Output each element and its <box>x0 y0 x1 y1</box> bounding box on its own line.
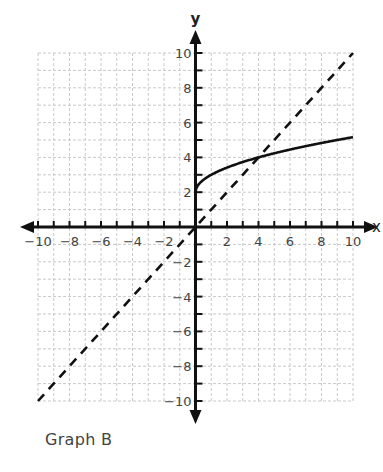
y-tick-label: −8 <box>172 359 191 374</box>
x-tick-label: −6 <box>91 234 110 249</box>
coordinate-plane: −10−8−6−4−2246810−10−8−6−4−2246810 x y <box>0 0 383 472</box>
axes <box>20 30 378 424</box>
x-tick-label: −10 <box>24 234 51 249</box>
x-tick-label: 2 <box>223 234 231 249</box>
x-tick-label: −8 <box>60 234 79 249</box>
y-tick-label: 2 <box>183 185 191 200</box>
y-axis-label: y <box>191 10 201 28</box>
y-tick-label: 8 <box>183 81 191 96</box>
x-axis-label: x <box>372 218 381 236</box>
y-tick-label: 6 <box>183 116 191 131</box>
x-tick-label: −2 <box>154 234 173 249</box>
y-tick-label: −6 <box>172 324 191 339</box>
y-tick-label: −2 <box>172 255 191 270</box>
x-tick-label: −4 <box>123 234 142 249</box>
y-tick-label: −10 <box>164 394 191 409</box>
x-tick-label: 4 <box>254 234 262 249</box>
y-tick-label: 4 <box>183 150 191 165</box>
x-tick-label: 10 <box>345 234 362 249</box>
x-tick-label: 8 <box>317 234 325 249</box>
y-tick-label: 10 <box>175 46 192 61</box>
graph-caption: Graph B <box>45 430 112 449</box>
x-tick-label: 6 <box>286 234 294 249</box>
y-tick-label: −4 <box>172 290 191 305</box>
